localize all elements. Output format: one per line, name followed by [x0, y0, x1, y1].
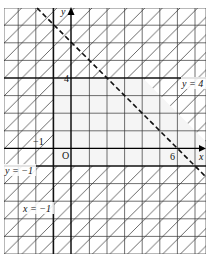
- tick-label-xneg1: −1: [33, 136, 44, 147]
- origin-label: O: [62, 150, 69, 161]
- label-y-equals-4: y = 4: [181, 78, 203, 89]
- label-y-equals-neg1: y = −1: [4, 165, 33, 176]
- tick-label-y4: 4: [64, 73, 69, 84]
- tick-label-x6: 6: [170, 151, 175, 162]
- label-x-equals-neg1: x = −1: [22, 203, 51, 214]
- y-axis-label: y: [60, 6, 66, 17]
- inequality-graph: y x O 4 6 −1 y = 4 y = −1 x = −1: [0, 0, 208, 261]
- x-axis-label: x: [198, 151, 204, 162]
